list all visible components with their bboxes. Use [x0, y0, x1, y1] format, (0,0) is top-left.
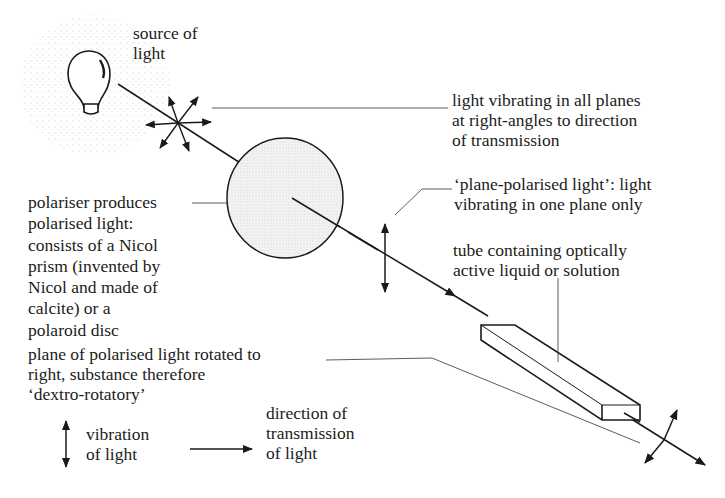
label-polariser: polariser produces polarised light: cons… [28, 192, 160, 341]
sample-tube [481, 325, 640, 422]
rotated-vibration-arrow-icon [645, 410, 677, 463]
polariser-disc [227, 138, 343, 258]
label-all-planes: light vibrating in all planes at right-a… [452, 90, 641, 150]
label-rotated: plane of polarised light rotated to righ… [28, 344, 261, 404]
legend-direction-label: direction of transmission of light [266, 403, 354, 463]
legend-vibration-label: vibration of light [86, 424, 149, 464]
label-tube: tube containing optically active liquid … [453, 240, 627, 280]
leader-plane-polarised [395, 189, 452, 215]
label-source-of-light: source of light [133, 23, 198, 63]
label-plane-polarised: ‘plane-polarised light’: light vibrating… [454, 174, 651, 214]
